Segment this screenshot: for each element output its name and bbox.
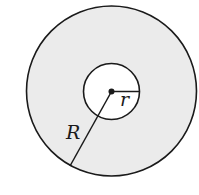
center-point xyxy=(109,89,115,95)
outer-radius-label: R xyxy=(65,121,80,143)
annulus-diagram: R r xyxy=(0,0,199,195)
